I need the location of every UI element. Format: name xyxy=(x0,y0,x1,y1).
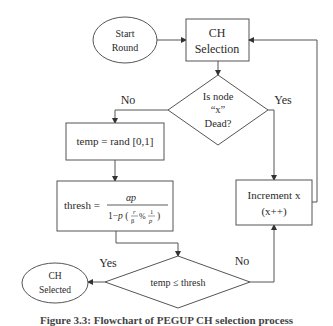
thresh-denominator: 1−p ( xyxy=(108,211,128,222)
temp-le-thresh-decision: temp ≤ thresh xyxy=(105,256,250,308)
ch-selection-node: CH Selection xyxy=(186,19,249,61)
ch-selected-label-1: CH xyxy=(48,271,61,281)
dead-check-label-1: Is node xyxy=(203,91,234,102)
compare-label: temp ≤ thresh xyxy=(151,277,206,288)
svg-text:1: 1 xyxy=(150,208,153,215)
figure-caption: Figure 3.3: Flowchart of PEGUP CH select… xyxy=(0,314,333,326)
edge-label-compare-yes: Yes xyxy=(99,256,117,270)
ch-selection-label-2: Selection xyxy=(195,42,240,56)
svg-text:%: % xyxy=(139,212,146,221)
temp-rand-label: temp = rand [0,1] xyxy=(76,135,153,147)
increment-label-1: Increment x xyxy=(248,189,301,201)
edge-label-compare-no: No xyxy=(235,254,250,268)
svg-text:): ) xyxy=(157,211,160,222)
edge-dead-no-to-temp xyxy=(115,110,168,123)
ch-selected-node: CH Selected xyxy=(22,263,88,303)
start-round-node: Start Round xyxy=(93,17,157,63)
increment-label-2: (x++) xyxy=(261,205,287,218)
edge-thresh-to-compare xyxy=(116,231,178,256)
edge-label-dead-yes: Yes xyxy=(274,93,292,107)
dead-check-label-2: “x” xyxy=(211,104,226,115)
ch-selection-label-1: CH xyxy=(209,26,226,40)
edge-increment-loop-to-selection xyxy=(249,40,317,202)
start-round-label-2: Round xyxy=(112,42,139,53)
thresh-numerator: αp xyxy=(126,192,136,203)
edge-label-dead-no: No xyxy=(121,93,136,107)
ch-selected-label-2: Selected xyxy=(39,285,71,295)
temp-rand-node: temp = rand [0,1] xyxy=(66,123,164,160)
is-node-dead-decision: Is node “x” Dead? xyxy=(168,75,268,145)
start-round-label-1: Start xyxy=(116,28,135,39)
thresh-node: thresh = αp 1−p ( r β % 1 p ) xyxy=(57,181,173,231)
increment-x-node: Increment x (x++) xyxy=(236,180,312,225)
dead-check-label-3: Dead? xyxy=(205,118,232,129)
edge-dead-yes-to-increment xyxy=(268,110,274,180)
edge-compare-no-to-increment xyxy=(250,225,274,282)
thresh-lhs: thresh = xyxy=(64,199,100,211)
